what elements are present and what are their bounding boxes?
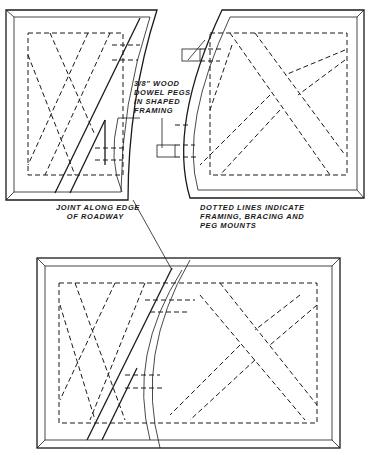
joint-label: JOINT ALONG EDGE OF ROADWAY bbox=[56, 203, 140, 221]
dotted-lines-label: DOTTED LINES INDICATE FRAMING, BRACING A… bbox=[200, 203, 305, 230]
dowel-pegs-label: 3/8" WOOD DOWEL PEGS IN SHAPED FRAMING bbox=[134, 79, 191, 115]
diagram-canvas bbox=[0, 0, 370, 455]
bottom-assembled-module bbox=[37, 258, 340, 448]
